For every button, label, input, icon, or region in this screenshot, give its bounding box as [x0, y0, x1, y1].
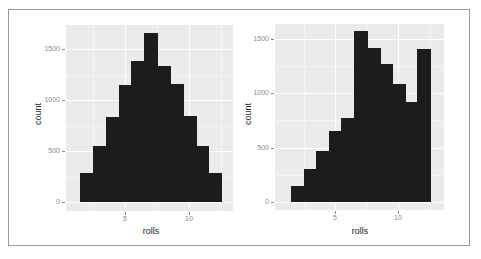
x-tick-label: 10: [388, 214, 408, 221]
x-tick-label: 5: [325, 214, 345, 221]
y-tick: [271, 93, 274, 94]
y-tick-label: 500: [243, 144, 269, 151]
gridline-major: [275, 202, 444, 203]
y-axis-label: count: [243, 94, 253, 134]
y-tick-label: 1000: [243, 89, 269, 96]
y-tick-label: 0: [243, 198, 269, 205]
plot-area: [275, 24, 444, 210]
histogram-bar: [417, 49, 431, 202]
y-tick: [271, 202, 274, 203]
x-axis-label: rolls: [340, 226, 380, 236]
y-tick: [271, 148, 274, 149]
y-tick: [271, 39, 274, 40]
y-tick-label: 1500: [243, 35, 269, 42]
histogram-right: count rolls 050010001500510: [0, 0, 481, 259]
